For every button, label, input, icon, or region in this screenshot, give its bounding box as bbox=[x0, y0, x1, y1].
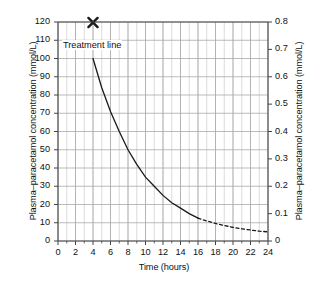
chart-container: Plasma–paracetamol concentration (mmol/L… bbox=[0, 0, 328, 285]
y-tick-label-left: 100 bbox=[24, 53, 50, 63]
x-axis-ticks bbox=[58, 241, 268, 245]
y-tick-label-left: 10 bbox=[24, 217, 50, 227]
y-tick-label-left: 20 bbox=[24, 199, 50, 209]
treatment-line-annotation: Treatment line bbox=[62, 40, 122, 50]
y-tick-label-left: 70 bbox=[24, 107, 50, 117]
y-tick-label-left: 50 bbox=[24, 144, 50, 154]
y-tick-label-right: 0.1 bbox=[275, 208, 305, 218]
y-tick-label-left: 30 bbox=[24, 180, 50, 190]
y-tick-label-left: 90 bbox=[24, 71, 50, 81]
y-tick-label-right: 0.8 bbox=[275, 16, 305, 26]
y-tick-label-right: 0.2 bbox=[275, 180, 305, 190]
y-tick-label-right: 0.3 bbox=[275, 153, 305, 163]
y-tick-label-left: 60 bbox=[24, 126, 50, 136]
y-tick-label-right: 0.7 bbox=[275, 43, 305, 53]
y-tick-label-left: 120 bbox=[24, 16, 50, 26]
y-tick-label-right: 0 bbox=[275, 235, 305, 245]
y-tick-label-right: 0.5 bbox=[275, 98, 305, 108]
y-axis-ticks-left bbox=[54, 22, 58, 241]
y-axis-ticks-right bbox=[268, 22, 272, 241]
y-tick-label-left: 40 bbox=[24, 162, 50, 172]
y-tick-label-left: 110 bbox=[24, 34, 50, 44]
y-tick-label-right: 0.6 bbox=[275, 71, 305, 81]
y-tick-label-left: 80 bbox=[24, 89, 50, 99]
y-tick-label-left: 0 bbox=[24, 235, 50, 245]
x-tick-label: 24 bbox=[258, 247, 278, 257]
y-tick-label-right: 0.4 bbox=[275, 126, 305, 136]
